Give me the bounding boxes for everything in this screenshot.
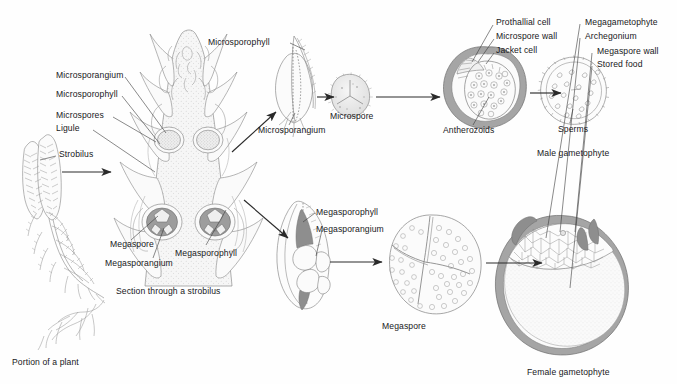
- label-jacket-cell: Jacket cell: [496, 46, 537, 55]
- diagram-artwork: [0, 0, 677, 384]
- female-gametophyte-illustration: [495, 215, 628, 355]
- leader-microsporophyll: [122, 96, 160, 144]
- label-microspore: Microspore: [330, 112, 374, 121]
- label-stored-food: Stored food: [597, 60, 643, 69]
- microsporangium-upper-left: [154, 127, 184, 153]
- microsporangium-upper-right: [193, 127, 223, 153]
- label-strobilus: Strobilus: [59, 150, 93, 159]
- leader-microsporophyll-detail: [290, 43, 305, 50]
- life-cycle-diagram: Microsporangium Microsporophyll Microspo…: [0, 0, 677, 384]
- megaspore-illustration: [390, 215, 482, 314]
- label-microsporophyll-detail: Microsporophyll: [208, 38, 270, 47]
- label-antherozoids: Antherozoids: [443, 126, 494, 135]
- label-archegonium: Archegonium: [585, 32, 637, 41]
- label-megasporangium-detail: Megasporangium: [316, 225, 384, 234]
- label-megasporophyll-detail: Megasporophyll: [316, 208, 378, 217]
- plant-illustration: [23, 135, 105, 350]
- label-microsporangium-detail: Microsporangium: [258, 126, 325, 135]
- label-prothallial-cell: Prothallial cell: [496, 18, 551, 27]
- label-microspores: Microspores: [56, 111, 104, 120]
- label-megagametophyte: Megagametophyte: [585, 18, 658, 27]
- megasporophyll-illustration: [277, 201, 330, 310]
- caption-portion-of-plant: Portion of a plant: [12, 357, 79, 367]
- label-sperms: Sperms: [558, 125, 588, 134]
- label-megaspore-wall: Megaspore wall: [597, 47, 659, 56]
- male-gametophyte-illustration: [443, 47, 526, 129]
- label-megasporangium-strobilus: Megasporangium: [105, 259, 173, 268]
- microsporophyll-illustration: [275, 36, 316, 137]
- label-microsporangium-strobilus: Microsporangium: [56, 71, 123, 80]
- caption-male-gametophyte: Male gametophyte: [537, 148, 609, 158]
- label-microspore-wall: Microspore wall: [496, 32, 557, 41]
- label-ligule: Ligule: [56, 124, 80, 133]
- caption-section-through-strobilus: Section through a strobilus: [116, 286, 220, 296]
- label-megaspore: Megaspore: [382, 322, 426, 331]
- label-microsporophyll-strobilus: Microsporophyll: [56, 90, 118, 99]
- label-megaspore-strobilus: Megaspore: [110, 240, 154, 249]
- label-megasporophyll-strobilus: Megasporophyll: [175, 249, 237, 258]
- caption-female-gametophyte: Female gametophyte: [527, 367, 610, 377]
